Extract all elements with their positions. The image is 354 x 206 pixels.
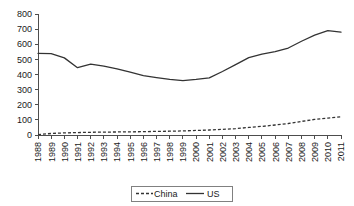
x-tick-label: 1991 <box>73 142 83 162</box>
y-tick-label: 500 <box>17 55 32 65</box>
x-tick-label: 2005 <box>257 142 267 162</box>
series-layer <box>38 31 341 135</box>
x-tick-label: 2002 <box>218 142 228 162</box>
x-tick-label: 1997 <box>152 142 162 162</box>
line-chart: 0100200300400500600700800 19881989199019… <box>0 0 354 206</box>
x-tick-label: 2000 <box>191 142 201 162</box>
x-tick-label: 2009 <box>310 142 320 162</box>
x-axis: 1988198919901991199219931994199519961997… <box>33 135 346 162</box>
y-axis: 0100200300400500600700800 <box>17 9 38 140</box>
y-tick-label: 300 <box>17 85 32 95</box>
x-tick-label: 1989 <box>47 142 57 162</box>
x-tick-label: 2004 <box>244 142 254 162</box>
x-tick-label: 1998 <box>165 142 175 162</box>
x-tick-label: 2008 <box>297 142 307 162</box>
x-tick-label: 2006 <box>271 142 281 162</box>
x-tick-label: 2010 <box>323 142 333 162</box>
x-tick-label: 1988 <box>33 142 43 162</box>
x-tick-label: 1996 <box>139 142 149 162</box>
x-tick-label: 1995 <box>126 142 136 162</box>
series-line-us <box>38 31 341 81</box>
y-tick-label: 600 <box>17 39 32 49</box>
x-tick-label: 1992 <box>86 142 96 162</box>
series-line-china <box>38 117 341 135</box>
y-tick-label: 400 <box>17 70 32 80</box>
chart-legend: ChinaUS <box>131 186 232 201</box>
x-tick-label: 1994 <box>112 142 122 162</box>
x-tick-label: 2011 <box>336 142 346 161</box>
x-tick-label: 2003 <box>231 142 241 162</box>
x-tick-label: 2007 <box>284 142 294 162</box>
y-tick-label: 800 <box>17 9 32 19</box>
y-tick-label: 200 <box>17 100 32 110</box>
x-tick-label: 1999 <box>178 142 188 162</box>
y-tick-label: 700 <box>17 24 32 34</box>
legend-label-china: China <box>154 189 178 199</box>
chart-canvas: 0100200300400500600700800 19881989199019… <box>0 0 354 206</box>
legend-label-us: US <box>207 189 220 199</box>
x-tick-label: 1990 <box>60 142 70 162</box>
x-tick-label: 1993 <box>99 142 109 162</box>
y-tick-label: 100 <box>17 115 32 125</box>
y-tick-label: 0 <box>27 130 32 140</box>
x-tick-label: 2001 <box>205 142 215 162</box>
